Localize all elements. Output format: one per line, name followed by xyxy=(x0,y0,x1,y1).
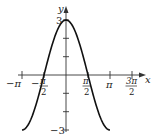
svg-text:π: π xyxy=(39,76,46,86)
y-axis-arrow-icon xyxy=(64,6,69,13)
cosine-graph: y x 3 −3 −π − π 2 π 2 π 3π 2 xyxy=(0,0,151,140)
y-max-label: 3 xyxy=(56,15,62,26)
svg-text:π: π xyxy=(82,76,89,86)
y-axis-label: y xyxy=(57,3,64,14)
svg-text:2: 2 xyxy=(84,87,89,97)
svg-text:2: 2 xyxy=(129,87,134,97)
svg-text:2: 2 xyxy=(41,87,46,97)
svg-text:−: − xyxy=(31,78,39,89)
x-tick-three-half-pi: 3π 2 xyxy=(126,76,138,97)
x-tick-pi: π xyxy=(105,79,113,90)
y-min-label: −3 xyxy=(50,125,65,136)
svg-text:3π: 3π xyxy=(126,76,137,86)
x-axis-label: x xyxy=(145,74,151,85)
x-tick-neg-pi: −π xyxy=(6,78,21,89)
